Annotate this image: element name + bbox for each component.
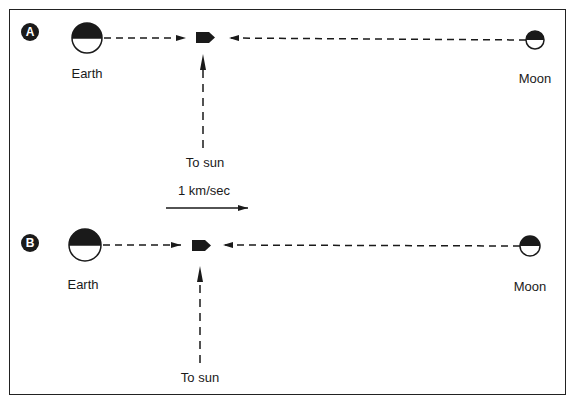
diagram-canvas (0, 0, 574, 404)
moon-gravity-arrow (223, 245, 520, 246)
moon-icon (520, 236, 540, 256)
panel-b (69, 229, 540, 363)
spacecraft-icon (196, 32, 215, 43)
panel-a-badge: A (21, 23, 39, 41)
sun-label: To sun (186, 156, 224, 169)
moon-icon (526, 31, 544, 49)
earth-icon (69, 229, 101, 261)
sun-label: To sun (181, 371, 219, 384)
sun-arrowhead-icon (200, 54, 206, 70)
spacecraft-icon (192, 240, 211, 251)
moon-gravity-arrow (229, 38, 526, 40)
panel-a (72, 23, 544, 148)
earth-label: Earth (71, 67, 102, 80)
sun-arrowhead-icon (197, 266, 203, 282)
earth-icon (72, 23, 102, 53)
scale-label: 1 km/sec (178, 184, 230, 197)
earth-label: Earth (67, 278, 98, 291)
panel-b-badge: B (21, 234, 39, 252)
moon-label: Moon (519, 72, 552, 85)
moon-label: Moon (514, 280, 547, 293)
